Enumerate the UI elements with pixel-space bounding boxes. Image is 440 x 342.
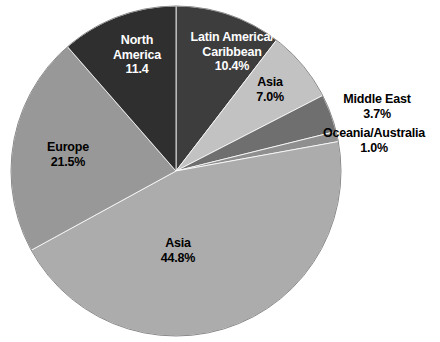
- pie-chart: Latin America/ Caribbean 10.4% Asia 7.0%…: [0, 0, 440, 342]
- pie-slice-group: [11, 6, 341, 336]
- pie-chart-canvas: [0, 0, 440, 342]
